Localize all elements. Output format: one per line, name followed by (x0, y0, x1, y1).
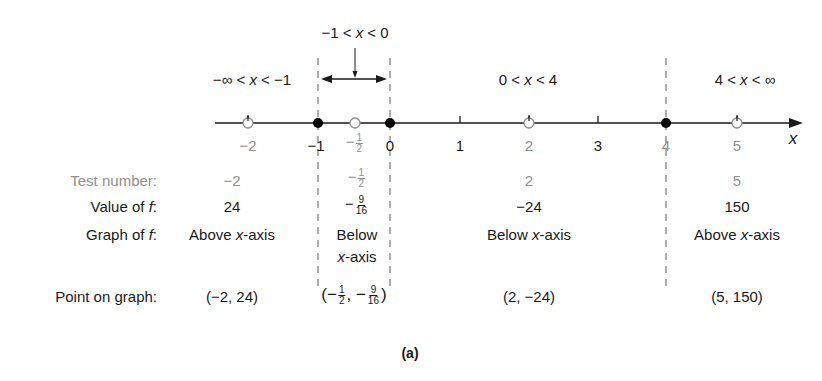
interval-label-3: 0 < x < 4 (499, 71, 557, 89)
row-label-graph-of-f: Graph of f: (86, 226, 157, 244)
col3-point: (2, −24) (503, 288, 555, 306)
zero-point-4 (661, 118, 671, 128)
row-label-test-number: Test number: (70, 172, 157, 190)
col1-value: 24 (224, 198, 241, 216)
col1-test-number: −2 (223, 172, 240, 190)
col4-point: (5, 150) (711, 288, 763, 306)
left-arrowhead-icon (321, 75, 332, 83)
interval-label-2: −1 < x < 0 (321, 24, 388, 42)
tick-label-3: 3 (594, 137, 602, 155)
col3-test-number: 2 (525, 172, 533, 190)
axis-arrowhead-icon (789, 118, 803, 128)
axis-label-x: x (789, 130, 798, 148)
tick-label-2: 2 (525, 137, 533, 155)
tick-label-1: 1 (456, 137, 464, 155)
zero-point-0 (385, 118, 395, 128)
down-arrow-icon (353, 71, 358, 78)
col1-point: (−2, 24) (206, 288, 258, 306)
tick-label-5: 5 (733, 137, 741, 155)
col3-graph: Below x-axis (487, 226, 571, 244)
col2-point: (−12, −916) (321, 285, 386, 306)
tick-label-4: 4 (662, 137, 670, 155)
col4-test-number: 5 (733, 172, 741, 190)
col2-test-number: −12 (348, 168, 366, 189)
row-label-value-of-f: Value of f: (91, 198, 157, 216)
interval-label-1: −∞ < x < −1 (213, 71, 291, 89)
col4-value: 150 (724, 198, 749, 216)
col2-graph-line2: x-axis (337, 248, 376, 266)
col2-value: −916 (345, 195, 369, 216)
col1-graph: Above x-axis (189, 226, 275, 244)
test-point-minus-half (350, 118, 360, 128)
number-line-graphic (0, 0, 822, 381)
tick-label-0: 0 (386, 137, 394, 155)
right-arrowhead-icon (376, 75, 387, 83)
col2-graph-line1: Below (337, 226, 378, 244)
tick-label-minus-1: −1 (307, 137, 324, 155)
tick-label-minus-half: −12 (346, 133, 364, 154)
zero-point-minus-1 (313, 118, 323, 128)
tick-label-minus-2: −2 (239, 137, 256, 155)
col4-graph: Above x-axis (694, 226, 780, 244)
col3-value: −24 (516, 198, 541, 216)
figure-caption: (a) (401, 344, 418, 362)
interval-label-4: 4 < x < ∞ (715, 71, 776, 89)
row-label-point-on-graph: Point on graph: (55, 288, 157, 306)
